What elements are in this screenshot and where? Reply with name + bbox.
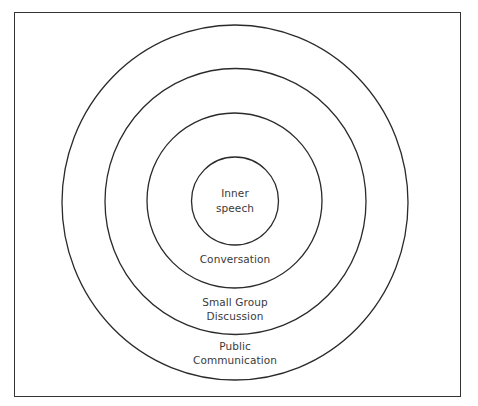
label-small-group-line1: Small Group xyxy=(0,295,470,309)
label-public-line1: Public xyxy=(0,339,470,353)
label-conversation: Conversation xyxy=(0,252,470,266)
label-small-group-line2: Discussion xyxy=(0,309,470,323)
label-public-line2: Communication xyxy=(0,353,470,367)
label-inner-speech-line1: Inner xyxy=(0,186,470,200)
label-inner-speech-line2: speech xyxy=(0,201,470,215)
